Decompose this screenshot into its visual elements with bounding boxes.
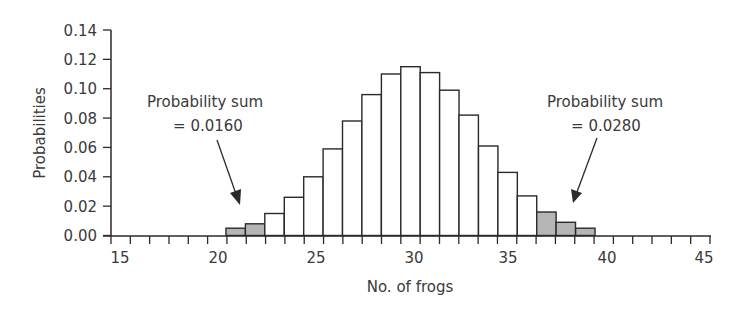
y-tick-label: 0.08	[64, 110, 97, 128]
bar-32	[440, 90, 459, 235]
bar-30	[401, 67, 420, 236]
bar-25	[304, 177, 323, 236]
bar-33	[459, 115, 478, 235]
x-tick-label: 40	[597, 249, 616, 267]
bar-24	[284, 197, 303, 235]
y-tick-label: 0.04	[64, 168, 97, 186]
y-tick-label: 0.14	[64, 22, 97, 40]
bar-36	[517, 196, 536, 236]
x-tick-label: 45	[694, 249, 713, 267]
bar-37	[537, 212, 556, 236]
annotation-left-line1: Probability sum	[147, 93, 263, 111]
arrow-right-shaft	[577, 138, 597, 192]
bar-23	[265, 214, 284, 236]
y-tick-label: 0.02	[64, 198, 97, 216]
x-axis-title: No. of frogs	[367, 278, 454, 296]
y-axis-title: Probabilities	[31, 87, 49, 179]
bar-21	[226, 228, 245, 235]
annotation-right: Probability sum = 0.0280	[547, 93, 663, 203]
bar-29	[381, 74, 400, 236]
bar-28	[362, 95, 381, 236]
x-tick-label: 20	[208, 249, 227, 267]
y-tick-label: 0.00	[64, 227, 97, 245]
y-tick-label: 0.06	[64, 139, 97, 157]
bars-group	[226, 67, 595, 236]
x-tick-label: 35	[498, 249, 517, 267]
x-tick-label: 30	[404, 249, 423, 267]
probability-histogram: 0.000.020.040.060.080.100.120.14 1520253…	[0, 0, 732, 317]
bar-31	[420, 73, 439, 236]
x-tick-label: 15	[110, 249, 129, 267]
annotation-right-line1: Probability sum	[547, 93, 663, 111]
arrow-left-shaft	[217, 140, 236, 194]
y-ticks-group: 0.000.020.040.060.080.100.120.14	[64, 22, 111, 246]
x-tick-label: 25	[306, 249, 325, 267]
annotation-left-line2: = 0.0160	[173, 117, 243, 135]
bar-39	[576, 228, 595, 235]
y-tick-label: 0.12	[64, 51, 97, 69]
bar-22	[245, 224, 264, 236]
y-tick-label: 0.10	[64, 80, 97, 98]
bar-35	[498, 172, 517, 235]
arrow-right-head-icon	[571, 189, 582, 203]
arrow-left-head-icon	[230, 189, 241, 205]
bar-26	[323, 149, 342, 236]
bar-27	[343, 121, 362, 236]
annotation-right-line2: = 0.0280	[571, 117, 641, 135]
x-ticks-group: 15202530354045	[110, 236, 713, 267]
bar-38	[556, 222, 575, 235]
annotation-left: Probability sum = 0.0160	[147, 93, 263, 205]
bar-34	[479, 146, 498, 236]
